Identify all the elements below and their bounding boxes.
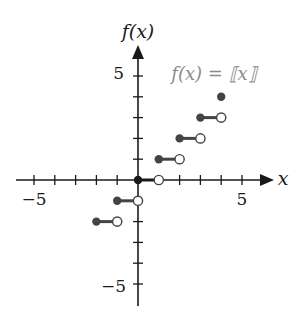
step-segment bbox=[92, 217, 122, 226]
x-tick-label-pos5: 5 bbox=[237, 189, 248, 209]
open-endpoint-circle bbox=[113, 217, 122, 226]
x-axis-label: x bbox=[278, 167, 289, 189]
closed-endpoint-dot bbox=[134, 176, 142, 184]
y-tick-label-pos5: 5 bbox=[113, 63, 124, 83]
closed-endpoint-dot bbox=[217, 93, 225, 101]
function-equation-label: f(x) = ⟦x⟧ bbox=[169, 63, 259, 84]
closed-endpoint-dot bbox=[113, 197, 121, 205]
open-endpoint-circle bbox=[133, 196, 142, 205]
step-segment bbox=[113, 196, 143, 205]
step-segment bbox=[196, 113, 226, 122]
step-segment bbox=[175, 134, 205, 143]
y-axis-arrow-icon bbox=[132, 45, 144, 59]
step-function-chart: f(x) x f(x) = ⟦x⟧ −5 5 5 −5 bbox=[0, 0, 304, 320]
open-endpoint-circle bbox=[217, 113, 226, 122]
axes bbox=[16, 45, 274, 306]
x-axis-arrow-icon bbox=[260, 174, 274, 186]
closed-endpoint-dot bbox=[196, 113, 204, 121]
open-endpoint-circle bbox=[175, 155, 184, 164]
step-segment bbox=[217, 93, 225, 101]
y-axis-label: f(x) bbox=[120, 20, 155, 42]
open-endpoint-circle bbox=[196, 134, 205, 143]
step-segments bbox=[92, 93, 226, 227]
closed-endpoint-dot bbox=[175, 134, 183, 142]
closed-endpoint-dot bbox=[92, 217, 100, 225]
open-endpoint-circle bbox=[154, 175, 163, 184]
closed-endpoint-dot bbox=[155, 155, 163, 163]
step-segment bbox=[134, 175, 164, 184]
step-segment bbox=[155, 155, 185, 164]
x-tick-label-neg5: −5 bbox=[21, 189, 46, 209]
y-tick-label-neg5: −5 bbox=[101, 276, 126, 296]
